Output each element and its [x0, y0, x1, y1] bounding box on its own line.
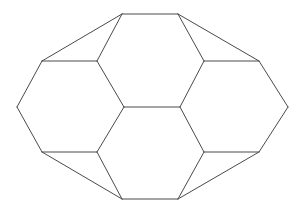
polyhedron-wireframe-figure: [0, 0, 305, 213]
